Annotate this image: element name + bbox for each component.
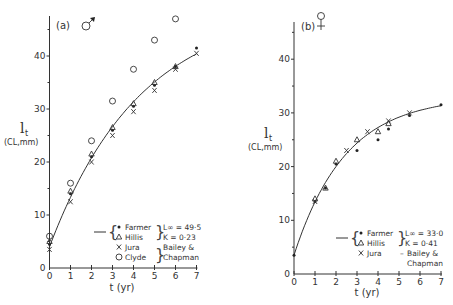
x-tick-label: 7 bbox=[438, 277, 444, 287]
legend-source-line1: Bailey & bbox=[407, 249, 438, 258]
y-tick-label: 30 bbox=[34, 104, 46, 114]
x-tick-label: 4 bbox=[131, 271, 137, 281]
legend: {FarmerHillisJura}L∞ = 33·0K = 0·41–Bail… bbox=[336, 228, 443, 268]
legend: {FarmerHillisJuraClyde}L∞ = 49·5K = 0·23… bbox=[94, 222, 201, 264]
x-axis-label: t (yr) bbox=[110, 282, 135, 293]
von-bertalanffy-curve bbox=[50, 54, 197, 247]
x-tick-label: 7 bbox=[194, 271, 200, 281]
x-tick-label: 0 bbox=[291, 277, 297, 287]
data-point-jura bbox=[365, 129, 369, 134]
data-point-farmer bbox=[377, 138, 380, 141]
legend-source-line2: Chapman bbox=[407, 259, 443, 268]
legend-label-jura: Jura bbox=[366, 249, 382, 258]
male-symbol-icon bbox=[82, 17, 95, 30]
legend-source-line2: Chapman bbox=[163, 253, 199, 262]
y-tick-label: 40 bbox=[34, 51, 46, 61]
data-point-jura bbox=[344, 148, 348, 153]
data-point-clyde bbox=[68, 180, 74, 186]
figure-canvas: 01234567010203040t (yr)lt(CL,mm)(a){Farm… bbox=[0, 0, 453, 305]
x-tick-label: 4 bbox=[375, 277, 381, 287]
y-tick-label: 10 bbox=[279, 215, 291, 225]
data-point-farmer bbox=[440, 103, 443, 106]
legend-label-clyde: Clyde bbox=[125, 253, 147, 262]
y-axis-units: (CL,mm) bbox=[4, 138, 38, 147]
female-symbol-icon bbox=[317, 13, 325, 31]
x-tick-label: 6 bbox=[417, 277, 423, 287]
data-point-jura bbox=[68, 199, 72, 204]
panel-label: (b) bbox=[301, 21, 315, 32]
legend-label-hillis: Hillis bbox=[125, 233, 143, 242]
data-point-jura bbox=[194, 51, 198, 56]
data-point-jura bbox=[313, 199, 317, 204]
x-tick-label: 2 bbox=[89, 271, 95, 281]
x-tick-label: 6 bbox=[173, 271, 179, 281]
y-tick-label: 0 bbox=[284, 269, 290, 279]
y-axis-label-subscript: t bbox=[25, 129, 28, 138]
legend-label-hillis: Hillis bbox=[367, 239, 385, 248]
legend-marker-jura bbox=[117, 245, 121, 250]
data-point-jura bbox=[131, 109, 135, 114]
y-axis-label-subscript: t bbox=[269, 134, 272, 143]
y-tick-label: 10 bbox=[34, 210, 46, 220]
data-point-jura bbox=[89, 160, 93, 165]
x-tick-label: 3 bbox=[110, 271, 116, 281]
y-tick-label: 40 bbox=[279, 54, 291, 64]
x-tick-label: 3 bbox=[354, 277, 360, 287]
data-point-clyde bbox=[110, 98, 116, 104]
legend-param-k: K = 0·23 bbox=[163, 233, 196, 242]
data-point-farmer bbox=[356, 149, 359, 152]
legend-source-dash: – bbox=[400, 249, 404, 258]
legend-label-farmer: Farmer bbox=[367, 229, 394, 238]
x-tick-label: 0 bbox=[47, 271, 53, 281]
panel-label: (a) bbox=[56, 20, 70, 31]
legend-param-linf: L∞ = 33·0 bbox=[405, 229, 443, 238]
legend-param-linf: L∞ = 49·5 bbox=[163, 223, 201, 232]
x-tick-label: 1 bbox=[68, 271, 74, 281]
x-axis-label: t (yr) bbox=[355, 287, 380, 298]
legend-marker-clyde bbox=[116, 254, 122, 260]
data-point-hillis bbox=[354, 137, 359, 142]
legend-source-line1: Bailey & bbox=[163, 243, 194, 252]
y-axis-units: (CL,mm) bbox=[248, 143, 282, 152]
data-point-hillis bbox=[375, 129, 380, 134]
data-point-clyde bbox=[89, 138, 95, 144]
legend-marker-farmer bbox=[118, 226, 121, 229]
data-point-clyde bbox=[131, 66, 137, 72]
panel-a: 01234567010203040t (yr)lt(CL,mm)(a){Farm… bbox=[4, 16, 201, 293]
panel-b: 01234567010203040t (yr)lt(CL,mm)(b){Farm… bbox=[248, 13, 444, 299]
data-point-jura bbox=[110, 133, 114, 138]
x-tick-label: 5 bbox=[152, 271, 158, 281]
data-point-farmer bbox=[195, 47, 198, 50]
legend-param-k: K = 0·41 bbox=[405, 239, 438, 248]
data-point-clyde bbox=[152, 37, 158, 43]
legend-marker-jura bbox=[359, 251, 363, 256]
data-point-farmer bbox=[293, 254, 296, 257]
legend-label-jura: Jura bbox=[124, 243, 140, 252]
x-tick-label: 1 bbox=[312, 277, 318, 287]
legend-marker-farmer bbox=[360, 232, 363, 235]
x-tick-label: 5 bbox=[396, 277, 402, 287]
data-point-clyde bbox=[173, 16, 179, 22]
legend-label-farmer: Farmer bbox=[125, 223, 152, 232]
y-tick-label: 0 bbox=[40, 263, 46, 273]
data-point-jura bbox=[152, 88, 156, 93]
y-tick-label: 20 bbox=[279, 162, 291, 172]
data-point-farmer bbox=[387, 128, 390, 131]
y-tick-label: 20 bbox=[34, 157, 46, 167]
y-tick-label: 30 bbox=[279, 108, 291, 118]
x-tick-label: 2 bbox=[333, 277, 339, 287]
